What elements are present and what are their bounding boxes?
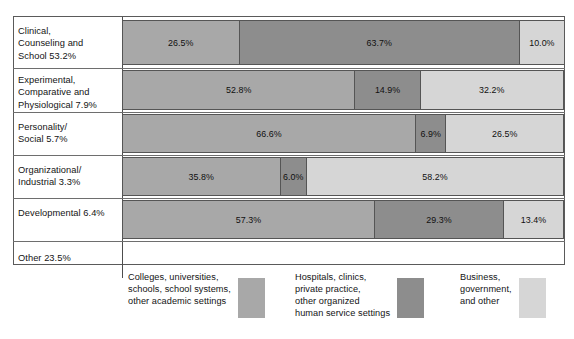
segment-value-label: 13.4%: [521, 215, 546, 225]
bar-segment: 58.2%: [307, 158, 563, 195]
segment-value-label: 6.9%: [420, 129, 440, 139]
segment-value-label: 10.0%: [529, 38, 554, 48]
bar-segment: 52.8%: [123, 71, 355, 109]
segment-value-label: 32.2%: [479, 85, 504, 95]
legend-swatch-business: [519, 278, 546, 318]
row-separator: [13, 155, 565, 156]
row-label-5: Other 23.5%: [18, 252, 122, 264]
row-label-1: Experimental, Comparative and Physiologi…: [18, 74, 122, 111]
row-label-2: Personality/ Social 5.7%: [18, 121, 122, 146]
segment-value-label: 26.5%: [168, 38, 193, 48]
row-label-4: Developmental 6.4%: [18, 207, 122, 219]
bar-segment: 10.0%: [520, 21, 564, 64]
segment-value-label: 26.5%: [492, 129, 517, 139]
row-label-0: Clinical, Counseling and School 53.2%: [18, 25, 122, 62]
bar-row-4: 57.3%29.3%13.4%: [122, 200, 564, 239]
row-separator: [13, 68, 565, 69]
segment-value-label: 57.3%: [236, 215, 261, 225]
legend-item-0: Colleges, universities, schools, school …: [128, 272, 265, 318]
row-separator: [13, 112, 565, 113]
bar-segment: 57.3%: [123, 201, 375, 238]
bar-segment: 6.0%: [281, 158, 307, 195]
bar-row-1: 52.8%14.9%32.2%: [122, 70, 564, 110]
legend-label: Business, government, and other: [460, 272, 512, 308]
bar-row-2: 66.6%6.9%26.5%: [122, 114, 564, 153]
segment-value-label: 14.9%: [375, 85, 400, 95]
segment-value-label: 52.8%: [226, 85, 251, 95]
bar-row-0: 26.5%63.7%10.0%: [122, 20, 564, 65]
legend-label: Colleges, universities, schools, school …: [128, 272, 231, 308]
bar-segment: 26.5%: [446, 115, 563, 152]
segment-value-label: 29.3%: [426, 215, 451, 225]
bar-row-3: 35.8%6.0%58.2%: [122, 157, 564, 196]
legend-item-2: Business, government, and other: [460, 272, 546, 318]
bar-segment: 13.4%: [504, 201, 563, 238]
bar-segment: 6.9%: [416, 115, 446, 152]
bar-segment: 26.5%: [123, 21, 240, 64]
row-separator: [13, 198, 565, 199]
bar-segment: 66.6%: [123, 115, 416, 152]
chart-legend: Colleges, universities, schools, school …: [0, 272, 574, 339]
segment-value-label: 35.8%: [189, 172, 214, 182]
stacked-bar-chart: Clinical, Counseling and School 53.2%26.…: [0, 0, 574, 339]
legend-item-1: Hospitals, clinics, private practice, ot…: [295, 272, 424, 320]
row-separator: [13, 241, 565, 242]
segment-value-label: 6.0%: [283, 172, 303, 182]
bar-segment: 32.2%: [421, 71, 563, 109]
bar-segment: 14.9%: [355, 71, 421, 109]
bar-segment: 29.3%: [375, 201, 504, 238]
segment-value-label: 63.7%: [367, 38, 392, 48]
legend-swatch-human-service: [397, 278, 424, 318]
legend-swatch-academic: [238, 278, 265, 318]
segment-value-label: 58.2%: [422, 172, 447, 182]
segment-value-label: 66.6%: [256, 129, 281, 139]
legend-label: Hospitals, clinics, private practice, ot…: [295, 272, 390, 320]
bar-segment: 63.7%: [240, 21, 520, 64]
row-label-3: Organizational/ Industrial 3.3%: [18, 164, 122, 189]
bar-segment: 35.8%: [123, 158, 281, 195]
